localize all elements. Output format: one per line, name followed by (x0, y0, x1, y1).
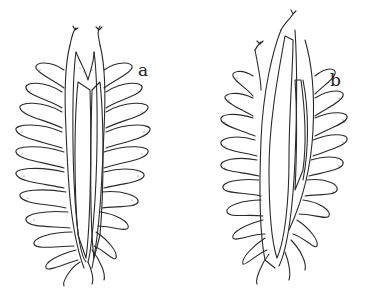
figure-panel-b: b (185, 0, 367, 304)
gill-drawing-b (185, 0, 367, 304)
figure-panel-a: a (0, 0, 185, 304)
panel-label-a: a (138, 60, 148, 80)
gill-drawing-a (0, 0, 185, 304)
panel-label-b: b (330, 70, 341, 90)
